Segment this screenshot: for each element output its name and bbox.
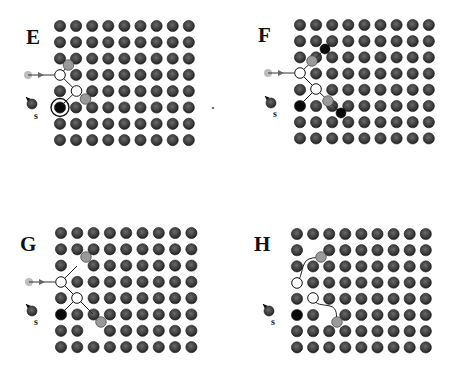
lattice-atom [372, 326, 383, 337]
lattice-atom [375, 117, 386, 128]
lattice-grid-g [55, 227, 197, 352]
lattice-atom [340, 293, 351, 304]
lattice-atom [420, 277, 431, 288]
lattice-atom [356, 309, 367, 320]
lattice-atom [404, 342, 415, 353]
source-atom [266, 98, 276, 108]
lattice-atom [87, 135, 98, 146]
lattice-atom [340, 261, 351, 272]
lattice-atom [55, 342, 66, 353]
lattice-atom [103, 20, 114, 31]
lattice-atom [72, 342, 83, 353]
lattice-atom [407, 100, 418, 111]
lattice-atom [420, 326, 431, 337]
lattice-atom [340, 245, 351, 256]
lattice-atom [104, 276, 115, 287]
lattice-atom [55, 325, 66, 336]
lattice-atom [324, 228, 335, 239]
lattice-atom [391, 52, 402, 63]
lattice-atom [343, 84, 354, 95]
lattice-atom [121, 276, 132, 287]
lattice-atom [391, 84, 402, 95]
vacancy-site [55, 70, 66, 81]
lattice-atom [103, 53, 114, 64]
vacancy-site [72, 293, 83, 304]
lattice-atom [54, 135, 65, 146]
vacancy-site [71, 86, 82, 97]
lattice-atom [170, 342, 181, 353]
lattice-atom [375, 133, 386, 144]
lattice-atom [308, 277, 319, 288]
lattice-atom [420, 261, 431, 272]
lattice-atom [71, 102, 82, 113]
lattice-atom [170, 293, 181, 304]
vacancy-site [56, 277, 67, 288]
lattice-atom [391, 36, 402, 47]
panel-label-g: G [20, 232, 36, 256]
lattice-atom [170, 227, 181, 238]
lattice-atom [294, 84, 305, 95]
lattice-atom [372, 309, 383, 320]
lattice-atom [167, 69, 178, 80]
lattice-atom [388, 245, 399, 256]
lattice-atom [167, 53, 178, 64]
lattice-atom [186, 325, 197, 336]
lattice-atom [423, 36, 434, 47]
lattice-atom [327, 133, 338, 144]
lattice-atom [359, 36, 370, 47]
lattice-atom [404, 261, 415, 272]
lattice-atom [104, 260, 115, 271]
lattice-atom [359, 100, 370, 111]
lattice-atom [291, 228, 302, 239]
lattice-atom [153, 309, 164, 320]
lattice-atom [137, 309, 148, 320]
lattice-atom [308, 228, 319, 239]
lattice-atom [104, 293, 115, 304]
lattice-atom [359, 133, 370, 144]
source-atom [27, 306, 37, 316]
lattice-atom [55, 293, 66, 304]
lattice-atom [186, 244, 197, 255]
lattice-atom [308, 326, 319, 337]
lattice-atom [340, 326, 351, 337]
lattice-atom [71, 118, 82, 129]
lattice-atom [167, 102, 178, 113]
interstitial-atom [332, 317, 343, 328]
lattice-atom [391, 100, 402, 111]
arrow-head-icon [39, 279, 45, 285]
lattice-atom [104, 244, 115, 255]
lattice-atom [153, 244, 164, 255]
lattice-atom [423, 84, 434, 95]
lattice-atom [167, 86, 178, 97]
lattice-atom [340, 342, 351, 353]
lattice-atom [183, 135, 194, 146]
lattice-atom [153, 325, 164, 336]
lattice-atom [55, 260, 66, 271]
lattice-atom [372, 277, 383, 288]
lattice-atom [54, 86, 65, 97]
lattice-atom [391, 68, 402, 79]
lattice-atom [71, 69, 82, 80]
lattice-atom [104, 342, 115, 353]
lattice-atom [291, 342, 302, 353]
lattice-atom [167, 118, 178, 129]
interstitial-atom [63, 60, 74, 71]
lattice-atom [71, 20, 82, 31]
vacancy-site [311, 84, 322, 95]
lattice-atom [121, 244, 132, 255]
lattice-atom [407, 52, 418, 63]
lattice-atom [388, 228, 399, 239]
lattice-atom [151, 69, 162, 80]
lattice-atom [407, 117, 418, 128]
lattice-atom [119, 135, 130, 146]
lattice-atom [407, 133, 418, 144]
lattice-atom [88, 260, 99, 271]
interstitial-atom [81, 252, 92, 263]
source-atom [27, 99, 37, 109]
lattice-figure: E s F s G s H s [0, 0, 456, 375]
lattice-atom [186, 260, 197, 271]
lattice-atom [87, 69, 98, 80]
lattice-atom [324, 277, 335, 288]
lattice-atom [343, 52, 354, 63]
lattice-atom [135, 86, 146, 97]
